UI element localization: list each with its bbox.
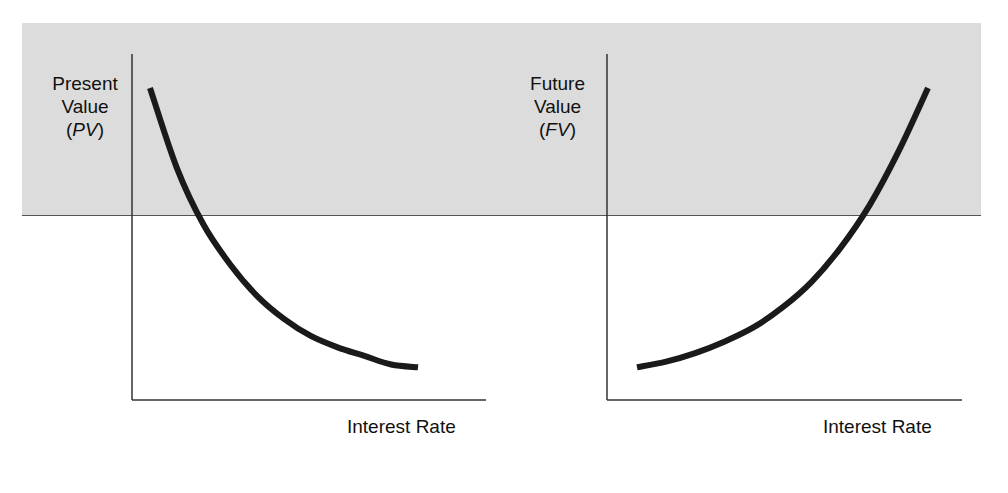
pv-symbol: PV: [72, 119, 97, 140]
fv-y-axis-label: Future Value (FV): [515, 72, 600, 141]
fv-label-line-1: Future: [515, 72, 600, 95]
pv-label-line-1: Present: [40, 72, 130, 95]
fv-x-axis-label: Interest Rate: [823, 416, 932, 438]
pv-curve: [150, 88, 418, 367]
pv-label-line-2: Value: [40, 95, 130, 118]
pv-x-axis-label: Interest Rate: [347, 416, 456, 438]
fv-symbol: FV: [545, 119, 569, 140]
fv-curve: [637, 88, 928, 367]
pv-label-symbol: (PV): [40, 118, 130, 141]
fv-label-symbol: (FV): [515, 118, 600, 141]
pv-y-axis-label: Present Value (PV): [40, 72, 130, 141]
fv-label-line-2: Value: [515, 95, 600, 118]
